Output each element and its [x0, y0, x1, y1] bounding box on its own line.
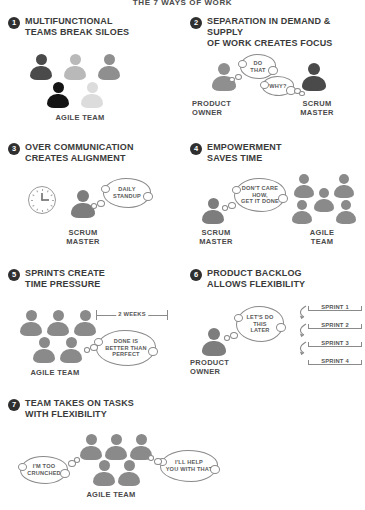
- section-7-title: TEAM TAKES ON TASKS WITH FLEXIBILITY: [25, 398, 134, 420]
- section-2-caption-left: PRODUCT OWNER: [192, 99, 258, 117]
- section-1-title: MULTIFUNCTIONAL TEAMS BREAK SILOES: [25, 16, 129, 38]
- section-1-heading: 1 MULTIFUNCTIONAL TEAMS BREAK SILOES: [8, 16, 180, 38]
- bubble-line-3: LATER: [250, 327, 269, 333]
- section-1-title-line-1: MULTIFUNCTIONAL: [25, 16, 129, 27]
- section-4-number: 4: [190, 143, 202, 155]
- person-icon: [30, 54, 52, 80]
- caption-line-2: MASTER: [286, 108, 348, 117]
- section-6-number: 6: [190, 269, 202, 281]
- sprint-item: SPRINT 3: [308, 334, 362, 349]
- section-1: 1 MULTIFUNCTIONAL TEAMS BREAK SILOES: [8, 16, 180, 136]
- person-icon: [336, 200, 356, 224]
- section-3-number: 3: [8, 143, 20, 155]
- person-icon: [105, 434, 127, 460]
- caption-line-2: OWNER: [190, 367, 246, 376]
- section-7-number: 7: [8, 399, 20, 411]
- caption-line-1: AGILE: [296, 228, 348, 237]
- section-2: 2 SEPARATION IN DEMAND & SUPPLY OF WORK …: [190, 16, 362, 136]
- sprint-item: SPRINT 4: [308, 352, 362, 367]
- measure-bar-label: 2 WEEKS: [116, 311, 148, 317]
- bubble-line-2: THIS: [253, 321, 267, 327]
- person-icon: [294, 174, 314, 198]
- bubble-line-2: BETTER THAN: [105, 345, 147, 351]
- section-4-title-line-1: EMPOWERMENT: [207, 142, 282, 153]
- speech-bubble-daily-standup: DAILY STANDUP: [103, 178, 151, 208]
- section-7-caption: AGILE TEAM: [72, 490, 150, 499]
- section-4-caption-right: AGILE TEAM: [296, 228, 348, 246]
- bubble-line-1: LET'S DO: [246, 314, 273, 320]
- section-2-title: SEPARATION IN DEMAND & SUPPLY OF WORK CR…: [207, 16, 362, 49]
- person-icon: [64, 54, 86, 80]
- section-6-caption: PRODUCT OWNER: [190, 358, 246, 376]
- bubble-tail-dot: [222, 205, 228, 211]
- clock-icon: [28, 186, 56, 214]
- bubble-tail-dot: [148, 455, 154, 461]
- section-6-title: PRODUCT BACKLOG ALLOWS FLEXIBILITY: [207, 268, 305, 290]
- person-icon-scrum-master: [202, 198, 224, 224]
- bubble-line-1: DO: [254, 60, 263, 66]
- person-icon-product-owner: [202, 328, 226, 356]
- speech-bubble-empowerment: DON'T CARE HOW, GET IT DONE: [234, 178, 286, 212]
- section-2-number: 2: [190, 17, 202, 29]
- backlog-arrows-icon: [290, 300, 312, 376]
- bubble-tail-dot: [154, 458, 162, 465]
- speech-bubble-done-is-better: DONE IS BETTER THAN PERFECT: [96, 330, 156, 366]
- bubble-line-1: DON'T CARE: [242, 185, 279, 191]
- bubble-line-2: THAT: [250, 67, 265, 73]
- bubble-tail-dot: [228, 202, 236, 209]
- caption-line-1: PRODUCT: [190, 358, 246, 367]
- bubble-tail-dot: [299, 91, 305, 96]
- section-4-title-line-2: SAVES TIME: [207, 153, 282, 164]
- person-icon: [60, 337, 82, 363]
- infographic-page: THE 7 WAYS OF WORK 1 MULTIFUNCTIONAL TEA…: [0, 0, 365, 510]
- bubble-line-3: GET IT DONE: [241, 198, 279, 204]
- caption-line-2: OWNER: [192, 108, 258, 117]
- bubble-line-2: CRUNCHED: [27, 470, 61, 476]
- section-5-title-line-1: SPRINTS CREATE: [25, 268, 105, 279]
- bubble-line-2: HOW,: [252, 192, 268, 198]
- speech-bubble-do-that: DO THAT: [240, 54, 276, 79]
- speech-bubble-im-too-crunched: I'M TOO CRUNCHED: [20, 456, 68, 484]
- section-3-title-line-1: OVER COMMUNICATION: [25, 142, 134, 153]
- section-7: 7 TEAM TAKES ON TASKS WITH FLEXIBILITY: [8, 398, 258, 508]
- bubble-line-1: DONE IS: [114, 338, 138, 344]
- caption-line-2: MASTER: [55, 237, 111, 246]
- caption-line-1: SCRUM: [190, 228, 242, 237]
- section-5-heading: 5 SPRINTS CREATE TIME PRESSURE: [8, 268, 180, 290]
- section-5: 5 SPRINTS CREATE TIME PRESSURE: [8, 268, 180, 393]
- page-title: THE 7 WAYS OF WORK: [0, 0, 365, 7]
- bubble-tail-dot: [84, 347, 90, 353]
- measure-bar-2-weeks: 2 WEEKS: [96, 310, 168, 320]
- person-icon-scrum-master: [302, 63, 326, 91]
- section-2-title-line-2: OF WORK CREATES FOCUS: [207, 38, 362, 49]
- section-1-number: 1: [8, 17, 20, 29]
- section-1-title-line-2: TEAMS BREAK SILOES: [25, 27, 129, 38]
- speech-bubble-ill-help-you: I'LL HELP YOU WITH THAT: [160, 450, 218, 482]
- bubble-tail-dot: [90, 344, 98, 351]
- person-icon: [98, 54, 120, 80]
- bubble-tail-dot: [230, 332, 238, 339]
- bubble-tail-dot: [235, 74, 242, 80]
- person-icon: [334, 174, 354, 198]
- section-5-number: 5: [8, 269, 20, 281]
- section-2-caption-right: SCRUM MASTER: [286, 99, 348, 117]
- caption-line-1: PRODUCT: [192, 99, 258, 108]
- bubble-tail-dot: [224, 335, 230, 341]
- section-6-title-line-1: PRODUCT BACKLOG: [207, 268, 305, 279]
- person-icon: [314, 188, 334, 212]
- section-4: 4 EMPOWERMENT SAVES TIME DON'T CARE HOW,…: [190, 142, 362, 262]
- section-5-caption: AGILE TEAM: [16, 368, 94, 377]
- section-3-caption: SCRUM MASTER: [55, 228, 111, 246]
- caption-line-2: MASTER: [190, 237, 242, 246]
- bubble-tail-dot: [91, 203, 97, 209]
- sprint-item: SPRINT 1: [308, 298, 362, 313]
- person-icon: [80, 434, 102, 460]
- section-4-title: EMPOWERMENT SAVES TIME: [207, 142, 282, 164]
- bubble-line-1: DAILY: [118, 186, 135, 192]
- person-icon: [47, 310, 69, 336]
- bubble-line-1: I'LL HELP: [175, 459, 203, 465]
- bubble-tail-dot: [74, 457, 80, 463]
- bubble-line-1: WHY?: [269, 83, 286, 90]
- section-3-title-line-2: CREATES ALIGNMENT: [25, 153, 134, 164]
- section-2-heading: 2 SEPARATION IN DEMAND & SUPPLY OF WORK …: [190, 16, 362, 49]
